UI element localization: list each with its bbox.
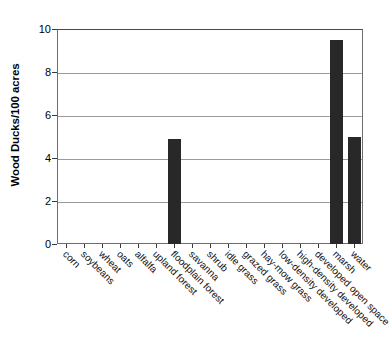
bar bbox=[348, 137, 361, 245]
y-tick-label: 2 bbox=[45, 196, 51, 207]
y-tickmark bbox=[52, 244, 57, 245]
x-tickmark bbox=[246, 244, 247, 248]
y-tickmark bbox=[52, 158, 57, 159]
x-tickmark bbox=[84, 244, 85, 248]
y-tickmark bbox=[52, 72, 57, 73]
y-axis-tick-labels: 0246810 bbox=[30, 22, 54, 248]
x-tickmark bbox=[300, 244, 301, 248]
x-category-label: corn bbox=[61, 249, 82, 270]
x-tickmark bbox=[282, 244, 283, 248]
x-tickmark bbox=[102, 244, 103, 248]
y-axis-title: Wood Ducks/100 acres bbox=[0, 0, 30, 250]
x-tickmark bbox=[66, 244, 67, 248]
y-tick-label: 0 bbox=[45, 239, 51, 250]
x-tickmark bbox=[192, 244, 193, 248]
bars-layer bbox=[57, 29, 363, 244]
y-tickmark bbox=[52, 115, 57, 116]
x-tickmark bbox=[174, 244, 175, 248]
x-axis-category-labels: cornsoybeanswheatoatsalfalfaupland fores… bbox=[57, 249, 383, 359]
x-tickmark bbox=[354, 244, 355, 248]
x-tickmark bbox=[210, 244, 211, 248]
bar bbox=[330, 40, 343, 244]
x-tickmark bbox=[156, 244, 157, 248]
x-tickmark bbox=[120, 244, 121, 248]
y-tick-label: 10 bbox=[39, 24, 51, 35]
y-axis-title-text: Wood Ducks/100 acres bbox=[9, 63, 21, 186]
x-tickmark bbox=[318, 244, 319, 248]
y-tick-label: 8 bbox=[45, 67, 51, 78]
y-tick-label: 4 bbox=[45, 153, 51, 164]
y-tickmark bbox=[52, 201, 57, 202]
y-tickmark bbox=[52, 29, 57, 30]
x-tickmark bbox=[336, 244, 337, 248]
y-tick-label: 6 bbox=[45, 110, 51, 121]
x-tickmark bbox=[228, 244, 229, 248]
x-tickmark bbox=[264, 244, 265, 248]
bar bbox=[168, 139, 181, 244]
x-tickmark bbox=[138, 244, 139, 248]
